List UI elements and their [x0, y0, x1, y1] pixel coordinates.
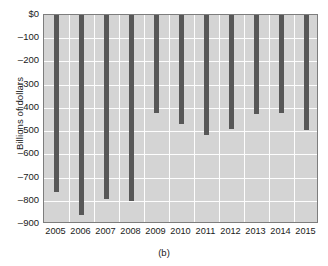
- y-axis-title: Billions of dollars: [14, 49, 25, 179]
- bar: [254, 15, 259, 114]
- bar: [104, 15, 109, 199]
- bar: [129, 15, 134, 201]
- y-tick-label: –200: [0, 54, 39, 65]
- bar: [179, 15, 184, 124]
- gridline-vertical: [144, 15, 145, 222]
- bar: [204, 15, 209, 135]
- gridline-vertical: [219, 15, 220, 222]
- bar: [154, 15, 159, 113]
- gridline-horizontal: [44, 154, 317, 155]
- gridline-vertical: [94, 15, 95, 222]
- bar: [79, 15, 84, 215]
- gridline-vertical: [294, 15, 295, 222]
- figure-caption: (b): [0, 247, 328, 258]
- plot-area: [43, 14, 318, 223]
- y-tick-label: $0: [0, 8, 39, 19]
- bar: [279, 15, 284, 113]
- y-tick-label: –500: [0, 124, 39, 135]
- y-tick-label: –900: [0, 217, 39, 228]
- gridline-vertical: [69, 15, 70, 222]
- gridline-horizontal: [44, 178, 317, 179]
- x-axis-tick-labels: 2005200620072008200920102011201220132014…: [43, 226, 318, 240]
- bar: [304, 15, 309, 130]
- gridline-vertical: [194, 15, 195, 222]
- bar: [229, 15, 234, 129]
- bar: [54, 15, 59, 192]
- y-tick-label: –300: [0, 78, 39, 89]
- y-tick-label: –800: [0, 194, 39, 205]
- gridline-vertical: [269, 15, 270, 222]
- gridline-vertical: [119, 15, 120, 222]
- gridline-vertical: [169, 15, 170, 222]
- gridline-vertical: [244, 15, 245, 222]
- y-tick-label: –100: [0, 31, 39, 42]
- gridline-horizontal: [44, 131, 317, 132]
- x-tick-label: 2015: [289, 226, 323, 236]
- y-tick-label: –700: [0, 171, 39, 182]
- chart-figure: Billions of dollars $0–100–200–300–400–5…: [0, 0, 328, 266]
- gridline-horizontal: [44, 201, 317, 202]
- y-tick-label: –400: [0, 101, 39, 112]
- y-tick-label: –600: [0, 147, 39, 158]
